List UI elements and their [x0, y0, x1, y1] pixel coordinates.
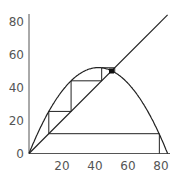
- y-tick-80: 80: [9, 15, 24, 29]
- identity-line: [29, 15, 168, 154]
- y-tick-20: 20: [9, 114, 24, 128]
- cobweb-chart: 80 60 40 20 0 20 40 60 80: [0, 0, 179, 176]
- cobweb-path: [49, 68, 160, 154]
- x-tick-60: 60: [120, 159, 135, 173]
- y-tick-labels: 80 60 40 20 0: [9, 15, 24, 161]
- y-tick-60: 60: [9, 48, 24, 62]
- x-tick-20: 20: [54, 159, 69, 173]
- y-tick-40: 40: [9, 81, 24, 95]
- plot-area: [29, 15, 168, 154]
- fixed-point-marker: [109, 69, 114, 74]
- x-tick-80: 80: [153, 159, 168, 173]
- y-tick-0: 0: [16, 147, 24, 161]
- x-tick-labels: 20 40 60 80: [54, 159, 168, 173]
- x-tick-40: 40: [87, 159, 102, 173]
